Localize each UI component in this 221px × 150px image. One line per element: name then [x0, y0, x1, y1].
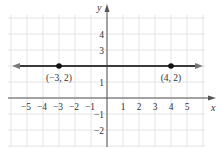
x-tick-label: −2: [69, 102, 79, 112]
x-tick-label: 3: [153, 102, 158, 112]
point-label: (−3, 2): [46, 73, 72, 84]
y-tick-label: 3: [99, 46, 104, 56]
y-tick-label: 4: [99, 30, 104, 40]
y-tick-label: −2: [94, 126, 104, 136]
axes: [8, 4, 216, 147]
x-tick-label: −5: [21, 102, 31, 112]
x-axis-label: x: [210, 102, 216, 113]
x-tick-label: 4: [169, 102, 174, 112]
x-tick-label: 1: [121, 102, 126, 112]
x-tick-label: −4: [37, 102, 47, 112]
data-point: [168, 63, 174, 69]
y-axis-label: y: [96, 2, 102, 13]
y-tick-label: −1: [94, 110, 104, 120]
coordinate-plane: xy−5−4−3−2−112345431−1−2(−3, 2)(4, 2): [0, 0, 221, 150]
x-tick-label: 5: [185, 102, 190, 112]
data-point: [56, 63, 62, 69]
y-tick-label: 1: [99, 78, 104, 88]
x-tick-label: 2: [137, 102, 142, 112]
x-tick-label: −3: [53, 102, 63, 112]
point-label: (4, 2): [161, 73, 182, 84]
